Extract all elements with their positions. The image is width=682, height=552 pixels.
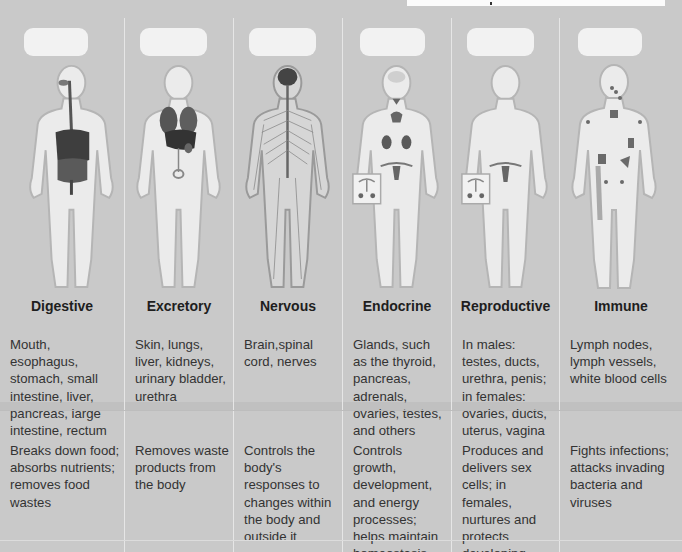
organs-text: Mouth, esophagus, stomach, small intesti…	[10, 336, 120, 439]
organs-text: Skin, lungs, liver, kidneys, urinary bla…	[135, 336, 229, 405]
system-name: Digestive	[0, 298, 124, 314]
truncated-text	[490, 2, 492, 5]
system-name: Endocrine	[343, 298, 451, 314]
label-pill	[467, 28, 534, 56]
organs-text: Lymph nodes, lymph vessels, white blood …	[570, 336, 678, 388]
function-text: Controls the body's responses to changes…	[244, 442, 338, 545]
column-excretory: Excretory Skin, lungs, liver, kidneys, u…	[125, 18, 234, 552]
column-endocrine: Endocrine Glands, such as the thyroid, p…	[343, 18, 452, 552]
header-label-box	[407, 0, 665, 6]
label-pill	[140, 28, 207, 56]
bottom-divider	[0, 540, 682, 541]
system-name: Immune	[560, 298, 682, 314]
system-name: Excretory	[125, 298, 233, 314]
column-nervous: Nervous Brain,spinal cord, nerves Contro…	[234, 18, 343, 552]
system-name: Nervous	[234, 298, 342, 314]
label-pill	[24, 28, 88, 56]
function-text: Produces and delivers sex cells; in fema…	[462, 442, 555, 552]
organs-text: Glands, such as the thyroid, pancreas, a…	[353, 336, 447, 439]
row-divider	[0, 410, 682, 411]
digestive-system-figure	[0, 60, 124, 290]
system-name: Reproductive	[452, 298, 559, 314]
organs-text: In males: testes, ducts, urethra, penis;…	[462, 336, 555, 439]
column-immune: Immune Lymph nodes, lymph vessels, white…	[560, 18, 682, 552]
column-reproductive: Reproductive In males: testes, ducts, ur…	[452, 18, 560, 552]
label-pill	[360, 28, 425, 56]
immune-system-figure	[560, 60, 682, 290]
reproductive-system-figure	[452, 60, 559, 290]
nervous-system-figure	[234, 60, 342, 290]
label-pill	[578, 28, 642, 56]
organs-text: Brain,spinal cord, nerves	[244, 336, 338, 370]
function-text: Fights infections; attacks invading bact…	[570, 442, 678, 511]
function-text: Removes waste products from the body	[135, 442, 229, 494]
function-text: Breaks down food; absorbs nutrients; rem…	[10, 442, 120, 511]
excretory-system-figure	[125, 60, 233, 290]
body-systems-table: Digestive Mouth, esophagus, stomach, sma…	[0, 18, 682, 552]
label-pill	[249, 28, 316, 56]
endocrine-system-figure	[343, 60, 451, 290]
function-text: Controls growth, development, and energy…	[353, 442, 447, 552]
column-digestive: Digestive Mouth, esophagus, stomach, sma…	[0, 18, 125, 552]
